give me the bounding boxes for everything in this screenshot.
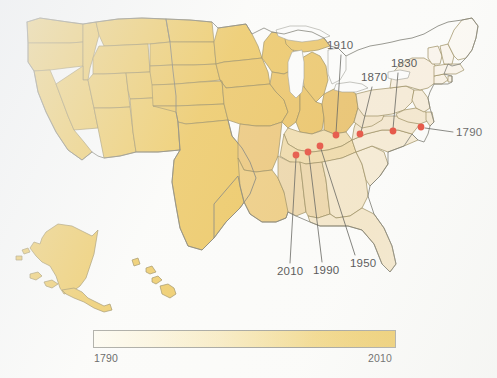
state-arkansas <box>238 122 282 172</box>
marker-1830[interactable] <box>390 128 397 135</box>
marker-2010[interactable] <box>293 152 300 159</box>
state-north-dakota <box>166 19 214 42</box>
legend-gradient-bar <box>93 330 396 348</box>
marker-1990[interactable] <box>305 149 312 156</box>
us-map-svg <box>0 0 497 378</box>
state-alaska <box>30 224 98 294</box>
state-ohio <box>322 88 358 134</box>
callout-label-1790: 1790 <box>456 127 482 139</box>
lake-ontario <box>388 70 410 80</box>
callout-label-1910: 1910 <box>327 40 353 52</box>
state-massachusetts <box>434 64 464 76</box>
state-wyoming <box>93 44 150 74</box>
legend-min-label: 1790 <box>94 353 118 364</box>
legend-max-label: 2010 <box>368 353 392 364</box>
state-washington <box>27 18 83 43</box>
lake-michigan <box>288 50 304 98</box>
alaska-hawaii-layer <box>16 224 176 312</box>
state-oregon <box>28 42 83 71</box>
state-vermont <box>428 46 442 64</box>
marker-1910[interactable] <box>333 132 340 139</box>
state-rhode-island <box>448 76 452 82</box>
state-south-dakota <box>150 42 216 66</box>
state-arizona <box>94 107 136 158</box>
state-montana <box>96 18 170 46</box>
state-iowa <box>216 58 270 88</box>
marker-1790[interactable] <box>418 124 425 131</box>
state-utah <box>88 73 130 108</box>
map-figure: 1910 1830 1870 1790 1950 1990 2010 1790 … <box>0 0 497 378</box>
callout-label-1950: 1950 <box>350 258 376 270</box>
callout-label-1870: 1870 <box>361 72 387 84</box>
marker-1870[interactable] <box>357 131 364 138</box>
marker-1950[interactable] <box>317 143 324 150</box>
state-minnesota <box>214 24 262 64</box>
callout-label-1990: 1990 <box>313 265 339 277</box>
callout-label-1830: 1830 <box>391 58 417 70</box>
state-hawaii <box>132 258 176 298</box>
state-kansas <box>152 81 224 106</box>
state-maine <box>448 18 478 60</box>
callout-label-2010: 2010 <box>277 266 303 278</box>
